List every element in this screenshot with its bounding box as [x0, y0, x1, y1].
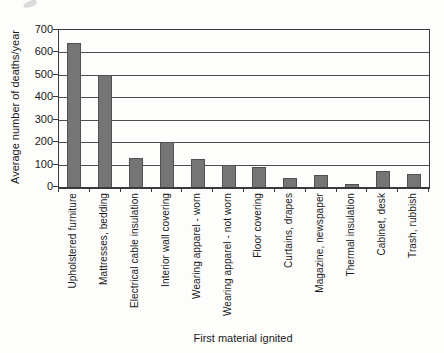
x-category-label-8: Magazine, newspaper [313, 193, 327, 333]
x-tick-mark-2 [120, 188, 121, 192]
y-tick-label-400: 400 [19, 89, 53, 103]
bar-11 [407, 174, 421, 187]
x-tick-mark-3 [151, 188, 152, 192]
x-category-label-1: Mattresses, bedding [97, 193, 111, 333]
y-tick-label-500: 500 [19, 67, 53, 81]
bar-9 [345, 184, 359, 187]
x-tick-mark-7 [274, 188, 275, 192]
x-category-label-9: Thermal insulation [344, 193, 358, 333]
plot-area [58, 29, 430, 189]
x-category-label-7: Curtains, drapes [282, 193, 296, 333]
x-tick-mark-11 [397, 188, 398, 192]
x-category-label-5: Wearing apparel - not worn [221, 193, 235, 333]
gridline-600 [59, 52, 429, 53]
y-tick-mark-500 [53, 74, 58, 75]
gridline-400 [59, 97, 429, 98]
y-tick-label-700: 700 [19, 22, 53, 36]
gridline-200 [59, 142, 429, 143]
bar-6 [252, 167, 266, 187]
x-tick-mark-12 [428, 188, 429, 192]
x-category-label-2: Electrical cable insulation [128, 193, 142, 333]
bar-10 [376, 171, 390, 187]
y-tick-mark-400 [53, 96, 58, 97]
y-tick-mark-100 [53, 164, 58, 165]
x-category-label-10: Cabinet, desk [375, 193, 389, 333]
x-category-label-11: Trash, rubbish [406, 193, 420, 333]
x-category-label-4: Wearing apparel - worn [190, 193, 204, 333]
scan-artifact [22, 0, 37, 9]
bar-1 [98, 75, 112, 187]
y-tick-label-200: 200 [19, 134, 53, 148]
x-category-label-6: Floor covering [251, 193, 265, 333]
bar-0 [67, 43, 81, 187]
x-category-label-0: Upholstered furniture [66, 193, 80, 333]
x-tick-mark-0 [58, 188, 59, 192]
x-axis-title: First material ignited [58, 331, 428, 345]
y-axis-title: Average number of deaths/year [8, 7, 22, 207]
y-tick-mark-200 [53, 141, 58, 142]
y-tick-mark-600 [53, 51, 58, 52]
x-tick-mark-4 [181, 188, 182, 192]
bar-7 [283, 178, 297, 187]
gridline-300 [59, 120, 429, 121]
x-tick-mark-8 [305, 188, 306, 192]
bar-4 [191, 159, 205, 187]
y-tick-mark-0 [53, 186, 58, 187]
x-tick-mark-1 [89, 188, 90, 192]
x-tick-mark-6 [243, 188, 244, 192]
gridline-500 [59, 75, 429, 76]
y-tick-label-100: 100 [19, 157, 53, 171]
bar-8 [314, 175, 328, 187]
bar-chart-figure: Average number of deaths/year First mate… [0, 0, 444, 353]
y-tick-label-0: 0 [19, 179, 53, 193]
bar-3 [160, 142, 174, 187]
bar-5 [222, 165, 236, 187]
y-tick-label-600: 600 [19, 44, 53, 58]
y-tick-mark-700 [53, 29, 58, 30]
bar-2 [129, 158, 143, 187]
y-tick-mark-300 [53, 119, 58, 120]
x-category-label-3: Interior wall covering [159, 193, 173, 333]
x-tick-mark-9 [336, 188, 337, 192]
gridline-100 [59, 165, 429, 166]
x-tick-mark-10 [366, 188, 367, 192]
x-tick-mark-5 [212, 188, 213, 192]
y-tick-label-300: 300 [19, 112, 53, 126]
